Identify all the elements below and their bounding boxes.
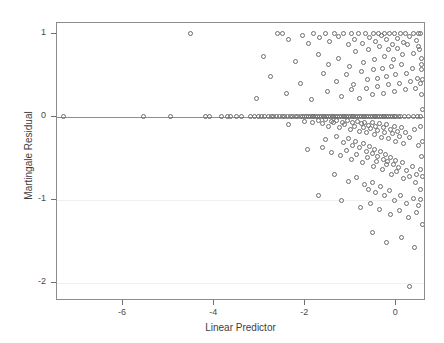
x-tick-3 [395, 300, 396, 305]
data-point [381, 91, 386, 96]
data-point [408, 79, 413, 84]
data-point [407, 174, 412, 179]
data-point [368, 201, 373, 206]
data-point [418, 197, 423, 202]
martingale-residual-plot: -6-4-2010-1-2 Linear Predictor Martingal… [0, 0, 444, 343]
data-point [416, 203, 421, 208]
data-point [326, 62, 331, 67]
data-point [392, 89, 397, 94]
data-point [419, 56, 424, 61]
data-point [334, 79, 339, 84]
data-point [397, 208, 402, 213]
data-point [413, 86, 418, 91]
data-point [420, 174, 424, 179]
data-point [302, 119, 307, 124]
data-point [388, 155, 393, 160]
data-point [374, 159, 379, 164]
data-point [317, 35, 322, 40]
data-point [367, 35, 372, 40]
data-point [419, 154, 424, 159]
data-point [361, 141, 366, 146]
data-point [366, 187, 371, 192]
data-point [399, 235, 404, 240]
data-point [361, 60, 366, 65]
y-tick-1 [51, 116, 56, 117]
data-point [401, 176, 406, 181]
data-point [397, 134, 402, 139]
data-point [378, 184, 383, 189]
data-point [359, 69, 364, 74]
data-point [228, 114, 233, 119]
data-point [336, 56, 341, 61]
data-point [261, 54, 266, 59]
data-point [320, 121, 325, 126]
data-point [366, 47, 371, 52]
data-point [393, 158, 398, 163]
data-point [280, 31, 285, 36]
data-point [293, 59, 298, 64]
data-point [326, 124, 331, 129]
data-point [339, 198, 344, 203]
data-point [365, 77, 370, 82]
data-point [414, 38, 419, 43]
x-axis-label: Linear Predictor [56, 322, 425, 333]
data-point [418, 167, 423, 172]
data-point [367, 144, 372, 149]
data-point [386, 82, 391, 87]
data-point [360, 160, 365, 165]
data-point [344, 72, 349, 77]
data-point [372, 147, 377, 152]
data-point [397, 81, 402, 86]
data-point [400, 52, 405, 57]
x-tick-label-3: 0 [375, 307, 415, 317]
data-point [420, 77, 424, 82]
data-point [410, 66, 415, 71]
data-point [327, 39, 332, 44]
data-point [316, 193, 321, 198]
data-point [406, 215, 411, 220]
x-tick-0 [122, 300, 123, 305]
data-point [346, 179, 351, 184]
data-point [389, 64, 394, 69]
data-point [407, 135, 412, 140]
data-point [368, 126, 373, 131]
data-point [268, 74, 273, 79]
data-point [378, 149, 383, 154]
data-point [403, 87, 408, 92]
plot-frame [56, 22, 425, 300]
data-point [414, 172, 419, 177]
data-point [309, 97, 314, 102]
data-point [347, 64, 352, 69]
data-point [382, 31, 387, 36]
data-point [394, 169, 399, 174]
data-point [380, 66, 385, 71]
data-point [305, 147, 310, 152]
x-tick-label-0: -6 [102, 307, 142, 317]
data-point [349, 157, 354, 162]
data-point [234, 114, 239, 119]
data-point [413, 180, 418, 185]
x-tick-1 [213, 300, 214, 305]
data-point [377, 207, 382, 212]
data-point [390, 131, 395, 136]
data-point [388, 212, 393, 217]
data-point [275, 31, 280, 36]
data-point [239, 114, 244, 119]
data-point [357, 96, 362, 101]
data-point [310, 120, 315, 125]
data-point [398, 193, 403, 198]
data-point [384, 74, 389, 79]
data-point [346, 42, 351, 47]
data-point [410, 164, 415, 169]
data-point [349, 87, 354, 92]
data-point [339, 94, 344, 99]
data-point [411, 51, 416, 56]
data-point [419, 62, 424, 67]
data-point [414, 210, 419, 215]
data-point [382, 130, 387, 135]
data-point [334, 134, 339, 139]
data-point [379, 135, 384, 140]
data-point [404, 201, 409, 206]
data-point [411, 196, 416, 201]
data-point [395, 46, 400, 51]
